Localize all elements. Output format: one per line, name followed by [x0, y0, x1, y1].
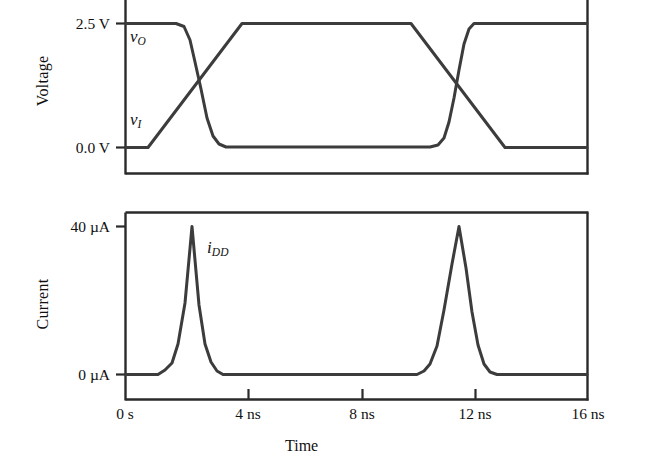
figure-container: Voltage 2.5 V 0.0 V vO vI Current 40 µA …	[0, 0, 653, 471]
curve-label-vi-base: v	[130, 110, 138, 129]
voltage-ytick-2p5v: 2.5 V	[22, 15, 110, 33]
curve-vi	[126, 24, 587, 148]
curve-label-vi-subscript: I	[138, 118, 142, 130]
xtick-4ns: 4 ns	[208, 405, 288, 423]
xtick-16ns: 16 ns	[548, 405, 628, 423]
xtick-0s: 0 s	[85, 405, 165, 423]
curve-label-idd: iDD	[207, 238, 229, 258]
current-axis-title: Current	[34, 254, 52, 354]
current-plot-frame	[116, 213, 589, 401]
curve-label-vo-subscript: O	[138, 35, 147, 47]
curve-label-vo-base: v	[130, 27, 138, 46]
time-axis-title: Time	[285, 437, 318, 455]
xtick-12ns: 12 ns	[435, 405, 515, 423]
curve-label-vo: vO	[130, 27, 146, 47]
voltage-ytick-0v: 0.0 V	[22, 139, 110, 157]
current-ytick-0ua: 0 µA	[12, 366, 110, 384]
voltage-axis-title: Voltage	[34, 31, 52, 131]
current-ytick-40ua: 40 µA	[12, 218, 110, 236]
curve-label-vi: vI	[130, 110, 142, 130]
curve-label-idd-subscript: DD	[212, 246, 229, 258]
xtick-8ns: 8 ns	[322, 405, 402, 423]
curve-idd	[126, 227, 587, 375]
